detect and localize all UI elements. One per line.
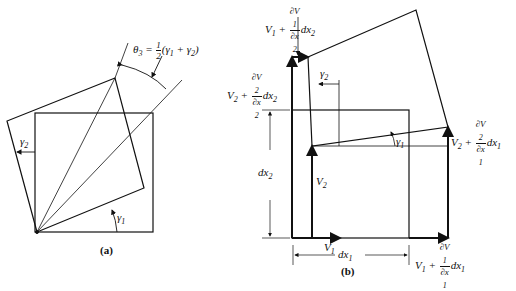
v2-label: V2	[316, 176, 327, 190]
deformed-square-b	[308, 10, 448, 146]
caption-b: (b)	[341, 265, 354, 277]
deformed-diagonal-a	[37, 78, 115, 232]
gamma2-label-b: γ2	[320, 68, 328, 82]
caption-a: (a)	[100, 244, 113, 256]
theta3-label: θ3 = 12(γ1 + γ2)	[133, 40, 199, 61]
v2-plus-dv2-dx1-label: V2 + ∂V2∂x1dx1	[451, 119, 501, 168]
v1-plus-dv1-dx1-label: V1 + ∂V1∂x1dx1	[415, 242, 465, 291]
gamma1-label-b: γ1	[396, 136, 404, 150]
gamma2-label-a: γ2	[20, 136, 28, 150]
original-square-b	[292, 110, 409, 238]
deformed-square-a	[7, 78, 144, 232]
v1-plus-dv1-dx2-label: V1 + ∂V1∂x2dx2	[265, 6, 315, 55]
v2-plus-dv2-dx2-label: V2 + ∂V2∂x2dx2	[227, 72, 277, 121]
panel-a-figure	[7, 43, 182, 234]
dx2-label: dx2	[258, 167, 272, 181]
original-diagonal-a	[37, 80, 182, 232]
dx1-label: dx1	[338, 249, 352, 263]
gamma1-label-a: γ1	[117, 212, 125, 226]
v1-label: V1	[324, 242, 335, 256]
